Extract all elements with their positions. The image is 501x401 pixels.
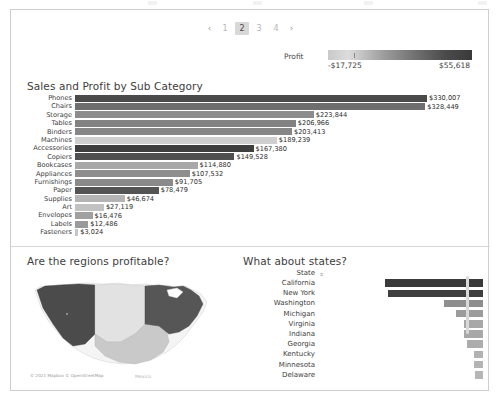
pagination-prev[interactable]: ‹: [204, 22, 215, 35]
subcategory-bar-row[interactable]: Tables$206,966: [27, 119, 482, 127]
state-bar[interactable]: [467, 340, 483, 348]
subcategory-bar-row[interactable]: Storage$223,844: [27, 111, 482, 119]
states-column-header[interactable]: State ⌅: [243, 268, 483, 278]
state-bar-row[interactable]: California$76,381: [243, 278, 483, 288]
state-label: Delaware: [243, 371, 319, 379]
subcategory-bar[interactable]: [75, 120, 296, 127]
subcategory-value-label: $27,119: [106, 203, 133, 211]
subcategory-label: Tables: [27, 119, 75, 127]
sort-descending-icon[interactable]: ⌅: [319, 270, 324, 277]
subcategory-bar-track: $223,844: [75, 111, 482, 118]
subcategory-bar-track: $206,966: [75, 120, 482, 127]
subcategory-bar[interactable]: [75, 153, 234, 160]
subcategory-label: Art: [27, 203, 75, 211]
state-bar-row[interactable]: Virginia$18,598: [243, 319, 483, 329]
top-artifact-dot: [364, 1, 373, 5]
subcategory-value-label: $3,024: [80, 228, 103, 236]
subcategory-bar-row[interactable]: Labels$12,486: [27, 220, 482, 228]
state-bar[interactable]: [444, 300, 483, 308]
state-bar-row[interactable]: Georgia$16,250: [243, 339, 483, 349]
subcategory-value-label: $91,705: [175, 178, 202, 186]
region-map[interactable]: © 2021 Mapbox © OpenStreetMap Mexico: [27, 272, 223, 380]
subcategory-value-label: $46,674: [127, 195, 154, 203]
subcategory-bar-track: $46,674: [75, 195, 482, 202]
subcategory-value-label: $189,239: [279, 136, 310, 144]
subcategory-bar-row[interactable]: Furnishings$91,705: [27, 178, 482, 186]
state-bar-track: $11,200: [319, 351, 483, 359]
state-label: Kentucky: [243, 350, 319, 358]
state-bar-row[interactable]: Washington$33,403: [243, 298, 483, 308]
subcategory-value-label: $114,880: [200, 161, 231, 169]
subcategory-bar[interactable]: [75, 204, 104, 211]
subcategory-bar-row[interactable]: Supplies$46,674: [27, 195, 482, 203]
subcategory-bar[interactable]: [75, 187, 159, 194]
subcategory-label: Appliances: [27, 170, 75, 178]
subcategory-bar-track: $328,449: [75, 103, 482, 110]
state-bar-track: $74,039: [319, 290, 483, 298]
subcategory-label: Phones: [27, 94, 75, 102]
profit-gradient-bar[interactable]: [328, 50, 472, 60]
subcategory-value-label: $203,413: [294, 128, 325, 136]
pagination-next[interactable]: ›: [286, 22, 297, 35]
subcategory-bar-row[interactable]: Binders$203,413: [27, 128, 482, 136]
profit-legend: Profit -$17,725 $55,618: [284, 48, 472, 74]
subcategory-bar[interactable]: [75, 195, 125, 202]
subcategory-bar-row[interactable]: Copiers$149,528: [27, 153, 482, 161]
state-label: Michigan: [243, 310, 319, 318]
subcategory-label: Accessories: [27, 144, 75, 152]
subcategory-bar[interactable]: [75, 128, 292, 135]
subcategory-bar[interactable]: [75, 162, 198, 169]
subcategory-bar-track: $107,532: [75, 170, 482, 177]
subcategory-bar[interactable]: [75, 170, 190, 177]
state-bar-row[interactable]: Delaware$9,977: [243, 370, 483, 380]
subcategory-bar-row[interactable]: Accessories$167,380: [27, 144, 482, 152]
states-scrollbar[interactable]: [466, 276, 469, 334]
subcategory-bar[interactable]: [75, 221, 88, 228]
subcategory-bar[interactable]: [75, 145, 254, 152]
subcategory-bar-row[interactable]: Appliances$107,532: [27, 170, 482, 178]
us-region-map-svg[interactable]: [27, 272, 223, 380]
state-label: Minnesota: [243, 361, 319, 369]
profit-legend-tick: [354, 53, 355, 58]
state-bar[interactable]: [474, 361, 483, 369]
subcategory-bar-row[interactable]: Machines$189,239: [27, 136, 482, 144]
pagination-page-4[interactable]: 4: [269, 22, 283, 35]
subcategory-bar-row[interactable]: Envelopes$16,476: [27, 211, 482, 219]
state-bar-row[interactable]: Kentucky$11,200: [243, 349, 483, 359]
subcategory-bar-row[interactable]: Chairs$328,449: [27, 102, 482, 110]
state-bar[interactable]: [456, 310, 483, 318]
subcategory-bar[interactable]: [75, 137, 277, 144]
state-bar-row[interactable]: Indiana$18,383: [243, 329, 483, 339]
states-bar-chart[interactable]: State ⌅ California$76,381New York$74,039…: [243, 268, 483, 380]
pagination-page-1[interactable]: 1: [218, 22, 232, 35]
subcategory-bar-row[interactable]: Paper$78,479: [27, 186, 482, 194]
state-bar[interactable]: [474, 351, 483, 359]
dashboard-card: ‹ 1 2 3 4 › Profit -$17,725 $55,618 Sale…: [10, 9, 489, 391]
pagination-page-3[interactable]: 3: [252, 22, 266, 35]
subcategory-bar-chart[interactable]: Phones$330,007Chairs$328,449Storage$223,…: [27, 94, 482, 242]
state-bar-track: $76,381: [319, 279, 483, 287]
subcategory-bar[interactable]: [75, 229, 78, 236]
state-bar[interactable]: [475, 371, 483, 379]
subcategory-bar[interactable]: [75, 111, 314, 118]
states-column-label: State: [243, 269, 318, 277]
subcategory-bar-track: $114,880: [75, 162, 482, 169]
state-bar-track: $10,823: [319, 361, 483, 369]
pagination-page-2[interactable]: 2: [235, 22, 249, 35]
state-bar-row[interactable]: Minnesota$10,823: [243, 360, 483, 370]
subcategory-bar-row[interactable]: Phones$330,007: [27, 94, 482, 102]
subcategory-bar-row[interactable]: Art$27,119: [27, 203, 482, 211]
pagination[interactable]: ‹ 1 2 3 4 ›: [11, 20, 490, 36]
subcategory-bar[interactable]: [75, 179, 173, 186]
state-bar-row[interactable]: New York$74,039: [243, 288, 483, 298]
top-artifact-dot: [148, 1, 157, 5]
subcategory-label: Storage: [27, 111, 75, 119]
state-bar-row[interactable]: Michigan$24,463: [243, 309, 483, 319]
subcategory-value-label: $223,844: [316, 111, 347, 119]
subcategory-bar[interactable]: [75, 95, 427, 102]
subcategory-bar-row[interactable]: Bookcases$114,880: [27, 161, 482, 169]
subcategory-bar[interactable]: [75, 212, 93, 219]
subcategory-bar[interactable]: [75, 103, 425, 110]
subcategory-bar-row[interactable]: Fasteners$3,024: [27, 228, 482, 236]
subcategory-bar-track: $27,119: [75, 204, 482, 211]
